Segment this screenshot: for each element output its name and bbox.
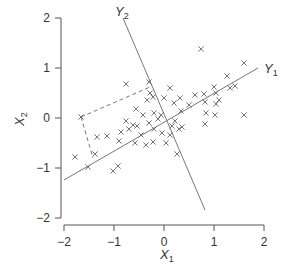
y2-label: Y2 [115, 4, 129, 21]
data-point-x-marker [211, 84, 216, 89]
data-point-x-marker [140, 112, 145, 117]
data-point-x-marker [198, 46, 203, 51]
data-point-x-marker [123, 118, 128, 123]
data-point-x-marker [241, 112, 246, 117]
data-points [72, 46, 246, 173]
data-point-x-marker [179, 124, 184, 129]
data-point-x-marker [146, 120, 151, 125]
data-point-x-marker [202, 99, 207, 104]
data-point-x-marker [224, 73, 229, 78]
data-point-x-marker [241, 60, 246, 65]
x-axis-title: X1 [159, 247, 174, 264]
y-tick-label: −2 [36, 211, 50, 225]
data-point-x-marker [177, 95, 182, 100]
data-point-x-marker [163, 140, 168, 145]
y2-line [123, 18, 205, 210]
data-point-x-marker [92, 151, 97, 156]
data-point-x-marker [186, 102, 191, 107]
y1-label: Y1 [264, 61, 278, 78]
data-point-x-marker [143, 142, 148, 147]
x-axis: −2−1012 [57, 225, 268, 249]
x-tick-label: −2 [57, 235, 71, 249]
data-point-x-marker [151, 110, 156, 115]
data-point-x-marker [118, 129, 123, 134]
y-tick-label: 2 [43, 11, 50, 25]
data-point-x-marker [116, 138, 121, 143]
data-point-x-marker [167, 85, 172, 90]
axis-titles: X1 X2 [12, 112, 174, 264]
data-point-x-marker [123, 81, 128, 86]
data-point-x-marker [104, 133, 109, 138]
data-point-x-marker [115, 163, 120, 168]
x-tick-label: −1 [107, 235, 121, 249]
data-point-x-marker [203, 110, 208, 115]
data-point-x-marker [150, 139, 155, 144]
data-point-x-marker [213, 101, 218, 106]
data-point-x-marker [155, 116, 160, 121]
data-point-x-marker [227, 85, 232, 90]
x-tick-label: 2 [261, 235, 268, 249]
data-point-x-marker [144, 97, 149, 102]
data-point-x-marker [201, 91, 206, 96]
data-point-x-marker [158, 112, 163, 117]
data-point-x-marker [169, 123, 174, 128]
data-point-x-marker [161, 95, 166, 100]
data-point-x-marker [216, 97, 221, 102]
y-axis: −2−1012 [36, 11, 61, 225]
data-point-x-marker [132, 140, 137, 145]
data-point-x-marker [110, 168, 115, 173]
data-point-x-marker [167, 132, 172, 137]
data-point-x-marker [192, 92, 197, 97]
data-point-x-marker [171, 100, 176, 105]
data-point-x-marker [159, 130, 164, 135]
y-tick-label: 1 [43, 61, 50, 75]
data-point-x-marker [212, 112, 217, 117]
projection-dashes [81, 87, 150, 158]
data-point-x-marker [72, 154, 77, 159]
scatter-chart: −2−1012 −2−1012 Y1Y2 X1 X2 [0, 0, 286, 275]
y-tick-label: −1 [36, 161, 50, 175]
data-point-x-marker [94, 134, 99, 139]
data-point-x-marker [78, 114, 83, 119]
data-point-x-marker [202, 121, 207, 126]
principal-axes: Y1Y2 [64, 4, 278, 210]
data-point-x-marker [150, 94, 155, 99]
y-axis-title: X2 [12, 112, 29, 127]
data-point-x-marker [130, 122, 135, 127]
data-point-x-marker [176, 126, 181, 131]
data-point-x-marker [133, 106, 138, 111]
data-point-x-marker [147, 90, 152, 95]
y-tick-label: 0 [43, 111, 50, 125]
data-point-x-marker [172, 118, 177, 123]
y1-line [64, 68, 258, 180]
data-point-x-marker [174, 151, 179, 156]
x-tick-label: 1 [211, 235, 218, 249]
data-point-x-marker [232, 83, 237, 88]
data-point-x-marker [134, 123, 139, 128]
